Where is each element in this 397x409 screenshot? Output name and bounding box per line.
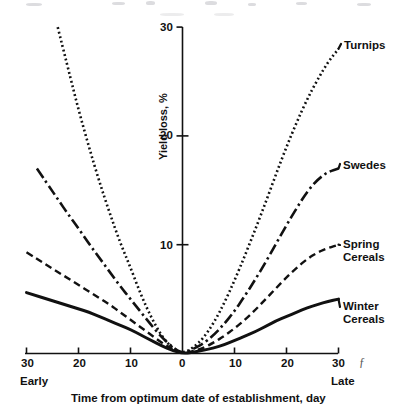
x-tick-label-plus30: 30: [332, 357, 345, 370]
label-leader-winter-cereals: [339, 299, 341, 307]
scan-speck: [205, 1, 217, 5]
label-leader-swedes: [339, 164, 341, 169]
scan-speck: [160, 13, 184, 16]
series-label-swedes: Swedes: [343, 159, 386, 172]
figure-container: 30 20 10 0 10 20 30 10 20 30 Yield loss,…: [0, 0, 397, 409]
scan-speck: [112, 2, 125, 5]
scan-speck: [26, 3, 42, 6]
x-tick-label-minus30: 30: [21, 357, 34, 370]
x-tick-label-zero: 0: [179, 357, 185, 370]
scan-speck: [248, 3, 256, 6]
yield-loss-chart: [0, 0, 397, 409]
series-label-winter-cereals-line2: Cereals: [343, 313, 385, 326]
scan-speck: [214, 13, 234, 16]
x-tick-label-plus20: 20: [281, 357, 294, 370]
label-leader-turnips: [339, 44, 342, 49]
x-tick-label-plus10: 10: [229, 357, 242, 370]
y-axis-title: Yield loss, %: [157, 93, 169, 160]
series-label-winter-cereals-line1: Winter: [343, 300, 379, 313]
x-tick-label-minus20: 20: [73, 357, 86, 370]
x-tick-label-minus10: 10: [125, 357, 138, 370]
scan-speck: [296, 2, 307, 5]
x-axis-early-note: Early: [20, 375, 48, 388]
scan-speck: [357, 3, 371, 6]
series-label-spring-cereals-line1: Spring: [343, 238, 379, 251]
series-curve-swedes: [37, 169, 339, 353]
scan-artifact-mark: ƒ: [359, 355, 365, 370]
y-tick-label-10: 10: [160, 239, 173, 252]
axes-group: [25, 27, 339, 354]
x-axis-late-note: Late: [331, 375, 355, 388]
scan-speck: [146, 1, 155, 5]
y-tick-label-30: 30: [160, 21, 173, 34]
series-label-turnips: Turnips: [344, 39, 385, 52]
x-axis-title: Time from optimum date of establishment,…: [71, 392, 326, 405]
series-curve-turnips: [58, 27, 339, 352]
series-label-spring-cereals-line2: Cereals: [343, 251, 385, 264]
label-leader-lines: [339, 44, 342, 307]
